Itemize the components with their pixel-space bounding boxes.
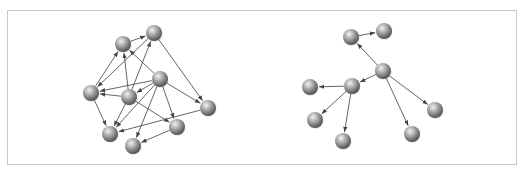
node-H (169, 119, 186, 136)
sphere-node-icon (83, 85, 99, 101)
edge-E-to-D (137, 83, 153, 93)
edge-C-to-A (95, 52, 118, 87)
node-R1 (343, 29, 360, 46)
node-A (115, 36, 132, 53)
edge-R1-to-R2 (359, 33, 375, 36)
node-D (121, 89, 138, 106)
sphere-node-icon (376, 23, 392, 39)
sphere-node-icon (302, 79, 318, 95)
node-R3 (375, 63, 392, 80)
sphere-node-icon (375, 63, 391, 79)
node-R9 (427, 102, 444, 119)
sphere-node-icon (343, 29, 359, 45)
edge-I-to-F (119, 110, 201, 132)
node-R5 (302, 79, 319, 96)
node-G (125, 138, 142, 155)
edge-H-to-G (141, 130, 169, 142)
node-R4 (344, 78, 361, 95)
graph-canvas (0, 0, 525, 172)
sphere-node-icon (102, 126, 118, 142)
edge-D-to-H (136, 101, 170, 122)
sphere-node-icon (404, 126, 420, 142)
node-F (102, 126, 119, 143)
edge-E-to-I (167, 83, 201, 103)
sphere-node-icon (335, 133, 351, 149)
edge-R3-to-R1 (357, 44, 377, 66)
edge-R4-to-R5 (319, 86, 344, 87)
sphere-node-icon (344, 78, 360, 94)
node-R6 (307, 112, 324, 129)
sphere-node-icon (121, 89, 137, 105)
sphere-node-icon (115, 36, 131, 52)
sphere-node-icon (125, 138, 141, 154)
node-C (83, 85, 100, 102)
edge-D-to-C (100, 94, 121, 96)
sphere-node-icon (307, 112, 323, 128)
edge-E-to-A (130, 50, 155, 73)
node-R8 (404, 126, 421, 143)
edge-R3-to-R9 (389, 76, 427, 105)
sphere-node-icon (169, 119, 185, 135)
node-B (146, 25, 163, 42)
node-I (200, 100, 217, 117)
edge-C-to-F (94, 100, 106, 126)
node-R2 (376, 23, 393, 40)
sphere-node-icon (146, 25, 162, 41)
edge-R3-to-R8 (386, 78, 408, 126)
node-R7 (335, 133, 352, 150)
edge-R3-to-R4 (360, 75, 376, 83)
sphere-node-icon (152, 71, 168, 87)
sphere-node-icon (200, 100, 216, 116)
sphere-node-icon (427, 102, 443, 118)
edge-A-to-B (131, 36, 146, 41)
edges-layer (94, 33, 427, 143)
edge-D-to-B (132, 41, 151, 89)
edge-R4-to-R7 (345, 94, 351, 132)
edge-E-to-H (163, 87, 174, 119)
edge-R4-to-R6 (322, 91, 347, 114)
